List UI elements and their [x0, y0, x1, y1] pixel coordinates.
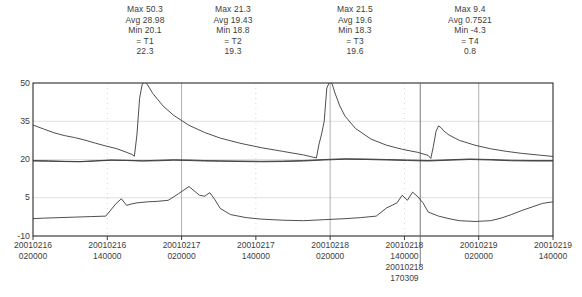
x-tick-time: 020000	[0, 251, 75, 262]
x-tick-label: 20010219020000	[437, 240, 521, 262]
x-tick-time: 140000	[511, 251, 582, 262]
x-tick-label: 20010219140000	[511, 240, 582, 262]
x-tick-time: 140000	[65, 251, 149, 262]
x-tick-time: 020000	[288, 251, 372, 262]
x-tick-time: 140000	[362, 251, 446, 262]
x-tick-date: 20010219	[437, 240, 521, 251]
series-line-t1	[33, 82, 553, 158]
x-tick-time: 020000	[140, 251, 224, 262]
x-tick-label: 20010217140000	[214, 240, 298, 262]
cursor-timestamp-label: 20010218 170309	[362, 262, 446, 284]
x-tick-label: 20010217020000	[140, 240, 224, 262]
x-tick-date: 20010216	[65, 240, 149, 251]
chart-root: Max 50.3Avg 28.98Min 20.1= T122.3Max 21.…	[0, 0, 582, 297]
x-tick-date: 20010217	[140, 240, 224, 251]
x-tick-time: 140000	[214, 251, 298, 262]
cursor-date: 20010218	[362, 262, 446, 273]
x-tick-label: 20010218140000	[362, 240, 446, 262]
series-group	[33, 82, 553, 221]
series-line-t4	[33, 187, 553, 222]
x-tick-time: 020000	[437, 251, 521, 262]
x-tick-label: 20010216140000	[65, 240, 149, 262]
x-tick-date: 20010216	[0, 240, 75, 251]
x-tick-date: 20010218	[288, 240, 372, 251]
x-tick-label: 20010216020000	[0, 240, 75, 262]
cursor-time: 170309	[362, 273, 446, 284]
x-tick-date: 20010218	[362, 240, 446, 251]
x-tick-date: 20010219	[511, 240, 582, 251]
x-tick-label: 20010218020000	[288, 240, 372, 262]
x-tick-date: 20010217	[214, 240, 298, 251]
